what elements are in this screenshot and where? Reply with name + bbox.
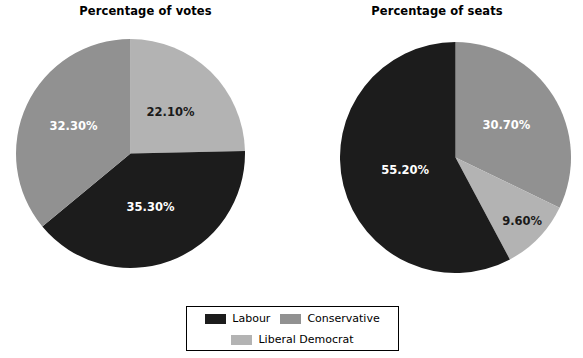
legend-label-conservative: Conservative — [307, 313, 379, 324]
chart-title-votes: Percentage of votes — [0, 4, 291, 18]
pie-slice — [131, 39, 245, 154]
pie-chart-seats: 30.70%9.60%55.20% — [340, 42, 571, 273]
pie-slice-label: 55.20% — [381, 163, 429, 177]
pie-slice-label: 22.10% — [147, 105, 195, 119]
legend-row-bottom: Liberal Democrat — [187, 329, 398, 350]
pie-slice-label: 30.70% — [482, 118, 530, 132]
legend-swatch-labour — [205, 314, 226, 324]
pie-slice-label: 9.60% — [502, 214, 542, 228]
chart-legend: Labour Conservative Liberal Democrat — [186, 306, 399, 351]
pie-chart-votes: 22.10%35.30%32.30% — [16, 39, 245, 268]
pie-chart-seats-svg: 30.70%9.60%55.20% — [340, 42, 571, 273]
legend-item-labour: Labour — [205, 313, 270, 324]
pie-slice-label: 35.30% — [127, 200, 175, 214]
pie-chart-votes-svg: 22.10%35.30%32.30% — [16, 39, 245, 268]
chart-panel-votes: Percentage of votes 22.10%35.30%32.30% — [0, 0, 291, 300]
pie-slice-label: 32.30% — [50, 119, 98, 133]
legend-swatch-conservative — [280, 314, 301, 324]
legend-swatch-liberal-democrat — [231, 335, 252, 345]
legend-label-labour: Labour — [232, 313, 270, 324]
legend-label-liberal-democrat: Liberal Democrat — [258, 334, 353, 345]
legend-item-conservative: Conservative — [280, 313, 379, 324]
chart-title-seats: Percentage of seats — [291, 4, 583, 18]
legend-item-liberal-democrat: Liberal Democrat — [231, 334, 353, 345]
chart-panel-seats: Percentage of seats 30.70%9.60%55.20% — [291, 0, 583, 300]
legend-row-top: Labour Conservative — [187, 308, 398, 329]
